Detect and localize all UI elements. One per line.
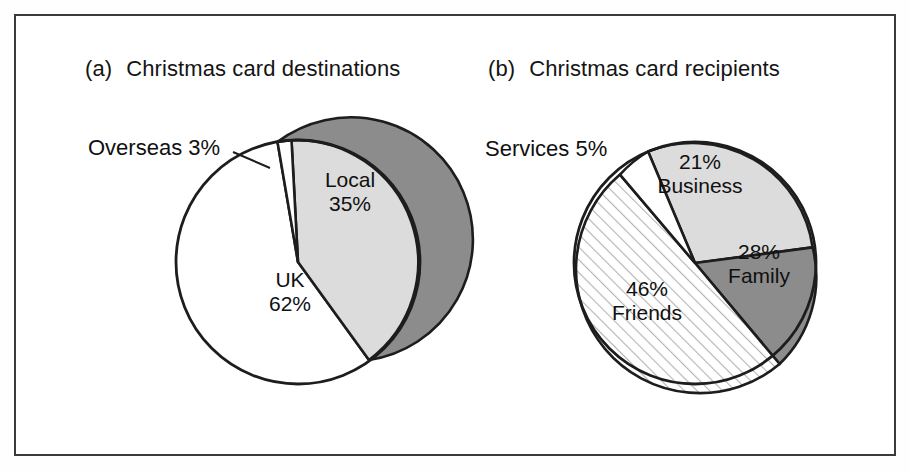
pie-a-label-local: Local 35%	[305, 168, 395, 215]
pie-b-label-family: 28% Family	[714, 240, 804, 287]
pie-b-family-name: Family	[714, 264, 804, 288]
pie-a-local-name: Local	[325, 168, 375, 191]
pie-b-business-pct: 21%	[679, 150, 721, 173]
pie-b-business-name: Business	[645, 174, 755, 198]
panel-b-title: (b)Christmas card recipients	[488, 56, 780, 82]
pie-a-label-overseas: Overseas 3%	[88, 135, 220, 161]
pie-b-label-friends: 46% Friends	[595, 277, 699, 324]
panel-a-tag: (a)	[85, 56, 112, 81]
panel-a-title: (a)Christmas card destinations	[85, 56, 400, 82]
pie-a-uk-name: UK	[275, 268, 304, 291]
panel-b-title-text: Christmas card recipients	[529, 56, 780, 81]
pie-b-friends-name: Friends	[595, 301, 699, 325]
panel-b: (b)Christmas card recipients	[455, 0, 910, 473]
panel-a-title-text: Christmas card destinations	[126, 56, 400, 81]
pie-b-label-services: Services 5%	[485, 136, 607, 162]
figure-canvas: (a)Christmas card destinations Overseas …	[0, 0, 910, 473]
pie-a-local-pct: 35%	[305, 192, 395, 216]
pie-b-family-pct: 28%	[738, 240, 780, 263]
pie-b-label-business: 21% Business	[645, 150, 755, 197]
pie-a-uk-pct: 62%	[245, 292, 335, 316]
pie-a-label-uk: UK 62%	[245, 268, 335, 315]
panel-b-tag: (b)	[488, 56, 515, 81]
panel-a: (a)Christmas card destinations Overseas …	[0, 0, 470, 473]
pie-b-friends-pct: 46%	[626, 277, 668, 300]
